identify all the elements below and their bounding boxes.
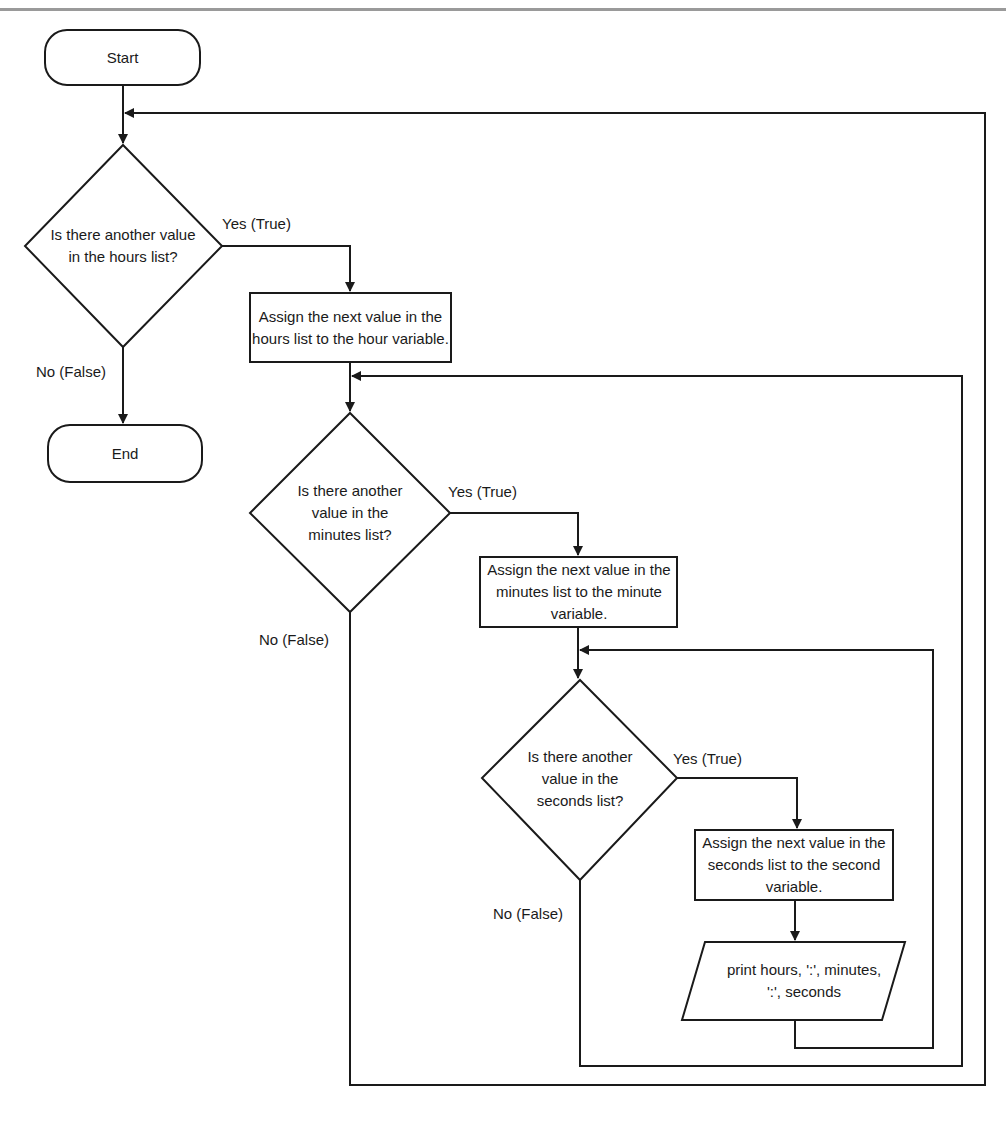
end-label: End <box>48 425 202 482</box>
edge-hours-yes <box>222 246 350 291</box>
hours-assign-label: Assign the next value in the hours list … <box>250 293 451 362</box>
seconds-no-label: No (False) <box>493 905 563 923</box>
minutes-assign-label: Assign the next value in the minutes lis… <box>484 557 674 627</box>
start-label: Start <box>45 30 200 85</box>
hours-decision-label: Is there another value in the hours list… <box>48 212 198 280</box>
hours-yes-label: Yes (True) <box>222 215 291 233</box>
seconds-assign-label: Assign the next value in the seconds lis… <box>697 830 891 900</box>
hours-no-label: No (False) <box>36 363 106 381</box>
seconds-yes-label: Yes (True) <box>673 750 742 768</box>
minutes-decision-label: Is there another value in the minutes li… <box>290 478 410 548</box>
seconds-decision-label: Is there another value in the seconds li… <box>515 744 645 814</box>
print-label: print hours, ':', minutes, ':', seconds <box>722 948 886 1014</box>
edge-seconds-yes <box>677 778 797 828</box>
edge-minutes-yes <box>450 513 578 555</box>
minutes-no-label: No (False) <box>259 631 329 649</box>
minutes-yes-label: Yes (True) <box>448 483 517 501</box>
